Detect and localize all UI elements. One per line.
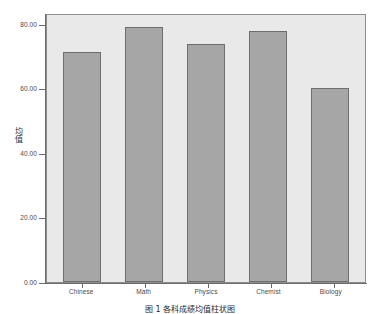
y-tick-40 [39,154,45,155]
bars-layer [47,15,365,282]
plot-inner [47,15,365,282]
bar-slot-biology [299,15,361,282]
x-label-chinese: Chinese [50,288,112,295]
y-tick-label-0: 0.00 [12,279,37,286]
y-tick-label-60: 60.00 [12,85,37,92]
bar-slot-chinese [51,15,113,282]
y-tick-60 [39,89,45,90]
bar-chinese[interactable] [63,52,100,282]
x-axis-labels: Chinese Math Physics Chemist Biology [46,288,366,295]
plot-area [46,14,366,283]
bar-physics[interactable] [187,44,224,282]
y-axis-title-char-2: 值 [12,136,26,144]
x-label-physics: Physics [175,288,237,295]
x-axis-line [45,283,367,284]
x-label-math: Math [112,288,174,295]
y-tick-80 [39,25,45,26]
figure-caption: 图 1 各科成绩均值柱状图 [0,303,380,314]
bar-slot-physics [175,15,237,282]
bar-slot-chemist [237,15,299,282]
bar-slot-math [113,15,175,282]
x-label-chemist: Chemist [237,288,299,295]
y-tick-label-80: 80.00 [12,21,37,28]
bar-chemist[interactable] [249,31,286,282]
bar-math[interactable] [125,27,162,282]
y-axis-title: 均 值 [12,128,26,145]
y-tick-label-20: 20.00 [12,214,37,221]
y-tick-20 [39,218,45,219]
x-label-biology: Biology [300,288,362,295]
y-tick-label-40: 40.00 [12,150,37,157]
y-axis-line [45,14,46,284]
bar-biology[interactable] [311,88,348,282]
